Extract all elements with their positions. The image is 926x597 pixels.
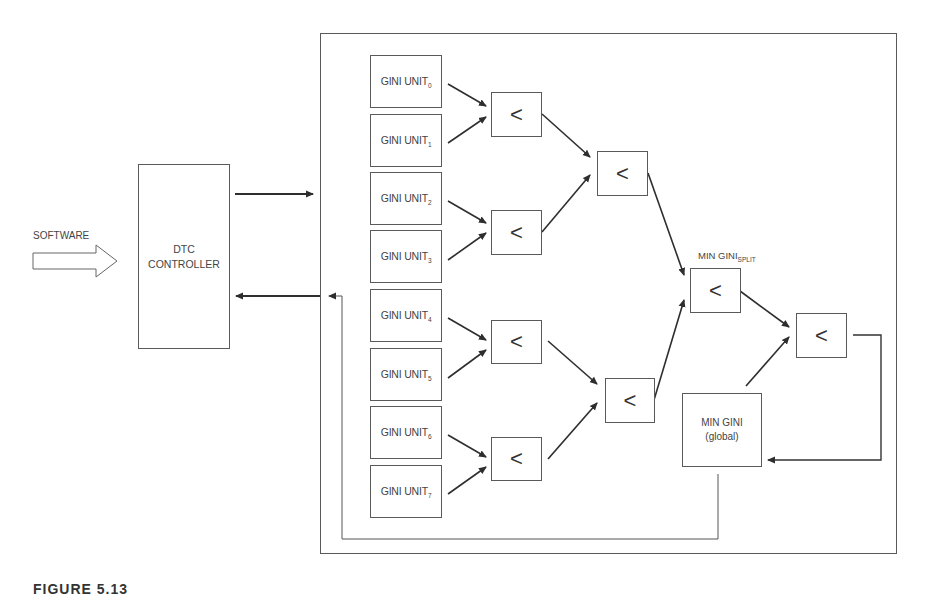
gini-unit-4: GINI UNIT4: [370, 289, 442, 342]
less-than-icon: <: [616, 163, 629, 185]
less-than-icon: <: [624, 390, 637, 412]
gini-unit-label: GINI UNIT: [381, 368, 428, 380]
gini-unit-label: GINI UNIT: [381, 134, 428, 146]
min-gini-split-label: MIN GINISPLIT: [698, 250, 756, 263]
gini-unit-index: 1: [428, 141, 431, 148]
gini-unit-index: 5: [428, 375, 431, 382]
less-than-icon: <: [510, 222, 523, 244]
gini-unit-index: 0: [428, 82, 431, 89]
comparator-l2-1: <: [605, 378, 655, 423]
dtc-controller-label-line2: CONTROLLER: [148, 257, 220, 272]
gini-unit-label: GINI UNIT: [381, 192, 428, 204]
comparator-l1-0: <: [491, 92, 542, 137]
gini-unit-label: GINI UNIT: [381, 250, 428, 262]
gini-unit-index: 2: [428, 199, 431, 206]
min-gini-global-line1: MIN GINI: [701, 416, 743, 430]
figure-caption: FIGURE 5.13: [33, 581, 128, 597]
gini-unit-index: 3: [428, 257, 431, 264]
comparator-l1-1: <: [491, 210, 542, 255]
gini-unit-index: 7: [428, 492, 431, 499]
min-gini-split-subscript: SPLIT: [738, 256, 756, 263]
less-than-icon: <: [510, 448, 523, 470]
comparator-l1-2: <: [491, 320, 542, 364]
min-gini-global-line2: (global): [701, 430, 743, 444]
comparator-l2-0: <: [597, 151, 648, 196]
comparator-l1-3: <: [491, 437, 542, 481]
gini-unit-2: GINI UNIT2: [370, 172, 442, 225]
min-gini-split-text: MIN GINI: [698, 250, 738, 261]
gini-unit-7: GINI UNIT7: [370, 465, 442, 518]
gini-unit-label: GINI UNIT: [381, 485, 428, 497]
gini-unit-5: GINI UNIT5: [370, 348, 442, 401]
gini-unit-label: GINI UNIT: [381, 309, 428, 321]
gini-unit-3: GINI UNIT3: [370, 230, 442, 283]
comparator-global: <: [796, 313, 847, 358]
min-gini-global-box: MIN GINI (global): [682, 393, 762, 467]
comparator-l3-min-split: <: [690, 268, 741, 313]
gini-unit-label: GINI UNIT: [381, 426, 428, 438]
gini-unit-6: GINI UNIT6: [370, 406, 442, 459]
gini-unit-1: GINI UNIT1: [370, 114, 442, 167]
gini-unit-index: 6: [428, 433, 431, 440]
less-than-icon: <: [709, 280, 722, 302]
gini-unit-index: 4: [428, 316, 431, 323]
gini-unit-label: GINI UNIT: [381, 75, 428, 87]
dtc-controller-label-line1: DTC: [148, 242, 220, 257]
less-than-icon: <: [815, 325, 828, 347]
less-than-icon: <: [510, 104, 523, 126]
less-than-icon: <: [510, 331, 523, 353]
dtc-controller-box: DTC CONTROLLER: [138, 164, 230, 349]
software-input-arrow: [33, 245, 117, 277]
gini-unit-0: GINI UNIT0: [370, 55, 442, 108]
software-label: SOFTWARE: [33, 230, 89, 241]
